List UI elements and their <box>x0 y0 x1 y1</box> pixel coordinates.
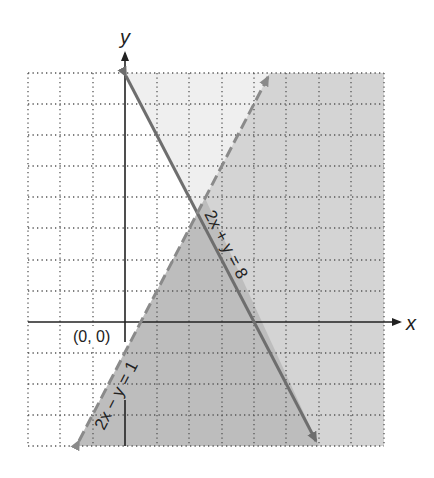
y-axis-label: y <box>118 26 131 48</box>
origin-label: (0, 0) <box>73 328 110 345</box>
x-axis-label: x <box>405 312 417 334</box>
inequality-graph: y x (0, 0) 2x + y = 8 2x − y = 1 <box>0 0 434 478</box>
